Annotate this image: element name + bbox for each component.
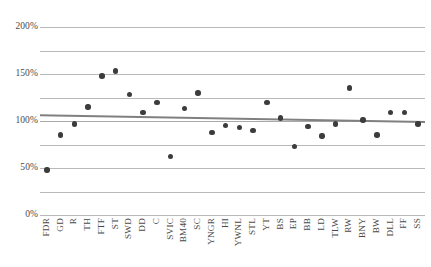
x-axis-tick-label: TLW — [329, 216, 343, 266]
x-axis-tick-text: YWNL — [235, 218, 244, 246]
x-axis-tick-text: C — [152, 218, 161, 224]
plot-area — [40, 27, 425, 215]
data-point — [250, 128, 255, 133]
data-point — [209, 130, 214, 135]
y-axis-tick-label: 0% — [4, 210, 38, 220]
data-point — [415, 121, 420, 126]
x-axis-tick-text: TLW — [331, 218, 340, 238]
x-axis-tick-label: BNY — [356, 216, 370, 266]
data-point — [44, 167, 49, 172]
x-axis-tick-label: STL — [246, 216, 260, 266]
x-axis-tick-label: TH — [81, 216, 95, 266]
x-axis-tick-text: ST — [111, 218, 120, 229]
x-axis-tick-text: FF — [400, 218, 409, 229]
data-point — [347, 85, 352, 90]
x-axis-tick-label: SWD — [122, 216, 136, 266]
data-point — [292, 144, 297, 149]
x-axis-tick-text: BW — [372, 218, 381, 233]
x-axis-tick-text: FTF — [97, 218, 106, 234]
x-axis-tick-text: BM40 — [180, 218, 189, 242]
x-axis-tick-label: ST — [109, 216, 123, 266]
x-axis-tick-text: TH — [84, 218, 93, 231]
data-point — [195, 90, 200, 95]
x-axis-tick-label: SS — [411, 216, 425, 266]
x-axis-tick-label: YNGR — [205, 216, 219, 266]
y-axis-tick-label: 50% — [4, 163, 38, 173]
x-axis-tick-label: BM40 — [177, 216, 191, 266]
trendline-segment — [40, 115, 425, 122]
x-axis-tick-text: YT — [262, 218, 271, 231]
x-axis-tick-text: DLL — [386, 218, 395, 236]
data-point — [319, 133, 324, 138]
x-axis-tick-text: DD — [139, 218, 148, 232]
x-axis-tick-text: LD — [317, 218, 326, 231]
y-axis-labels: 200%150%100%50%0% — [0, 27, 38, 215]
x-axis-tick-label: BW — [370, 216, 384, 266]
data-point — [333, 121, 338, 126]
x-axis-tick-text: YNGR — [207, 218, 216, 245]
data-point — [85, 104, 90, 109]
x-axis-tick-text: RW — [345, 218, 354, 233]
x-axis-tick-text: BB — [304, 218, 313, 231]
x-axis-tick-label: BS — [274, 216, 288, 266]
x-axis-tick-label: RW — [342, 216, 356, 266]
data-point — [99, 73, 104, 78]
x-axis-tick-text: BNY — [359, 218, 368, 238]
trendline — [40, 27, 425, 215]
data-point — [140, 110, 145, 115]
x-axis-tick-text: SC — [194, 218, 203, 230]
data-point — [374, 132, 379, 137]
data-point — [154, 100, 159, 105]
x-axis-tick-text: EP — [290, 218, 299, 229]
x-axis-tick-text: FDR — [42, 218, 51, 236]
x-axis-tick-label: C — [150, 216, 164, 266]
x-axis-tick-text: SWD — [125, 218, 134, 239]
data-point — [264, 100, 269, 105]
x-axis-tick-label: DD — [136, 216, 150, 266]
x-axis-tick-text: R — [70, 218, 79, 224]
x-axis-tick-label: SVIC — [164, 216, 178, 266]
data-point — [72, 121, 77, 126]
x-axis-tick-label: EP — [287, 216, 301, 266]
data-point — [360, 117, 365, 122]
x-axis-tick-text: BS — [276, 218, 285, 230]
x-axis-tick-text: GD — [56, 218, 65, 232]
x-axis-tick-text: STL — [249, 218, 258, 235]
x-axis-tick-label: YWNL — [232, 216, 246, 266]
x-axis-tick-text: SVIC — [166, 218, 175, 240]
y-axis-tick-label: 100% — [4, 116, 38, 126]
x-axis-labels: FDRGDRTHFTFSTSWDDDCSVICBM40SCYNGRHIYWNLS… — [40, 216, 425, 267]
y-axis-tick-label: 200% — [4, 22, 38, 32]
x-axis-tick-label: SC — [191, 216, 205, 266]
x-axis-tick-label: LD — [315, 216, 329, 266]
scatter-chart: 200%150%100%50%0% FDRGDRTHFTFSTSWDDDCSVI… — [0, 0, 431, 267]
x-axis-tick-label: BB — [301, 216, 315, 266]
x-axis-tick-label: HI — [219, 216, 233, 266]
x-axis-tick-label: FTF — [95, 216, 109, 266]
x-axis-tick-text: HI — [221, 218, 230, 228]
x-axis-tick-label: FDR — [40, 216, 54, 266]
x-axis-tick-text: SS — [414, 218, 423, 229]
x-axis-tick-label: DLL — [384, 216, 398, 266]
x-axis-tick-label: YT — [260, 216, 274, 266]
x-axis-tick-label: GD — [54, 216, 68, 266]
x-axis-tick-label: FF — [397, 216, 411, 266]
x-axis-tick-label: R — [67, 216, 81, 266]
y-axis-tick-label: 150% — [4, 69, 38, 79]
